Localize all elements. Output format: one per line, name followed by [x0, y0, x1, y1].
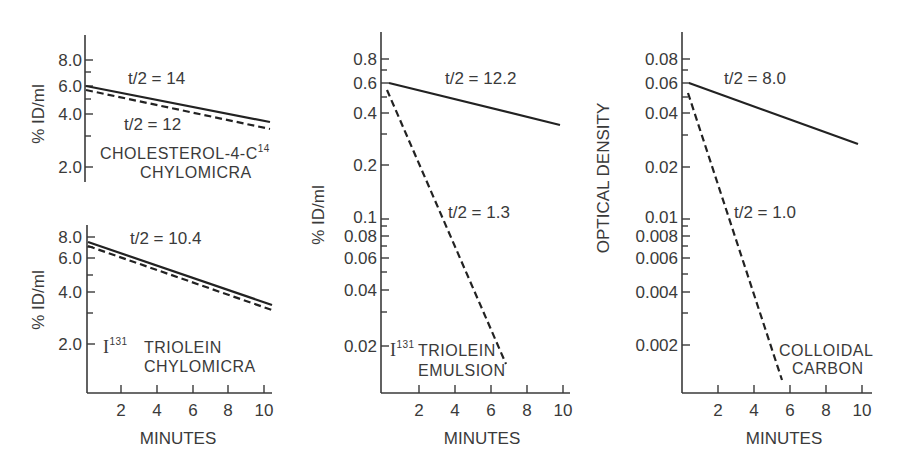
y-tick-label: 6.0	[58, 77, 82, 96]
y-tick-label: 0.2	[353, 156, 377, 175]
y-tick-label: 8.0	[58, 51, 82, 70]
y-tick-label: 0.008	[635, 227, 678, 246]
series-dashed-line	[88, 246, 272, 310]
y-tick-label: 0.6	[353, 74, 377, 93]
y-tick-label: 0.004	[635, 283, 678, 302]
y-tick-label: 0.4	[353, 104, 377, 123]
y-tick-label: 0.08	[344, 227, 377, 246]
annotation-halflife-solid: t/2 = 8.0	[724, 69, 786, 88]
panel-title-isotope: I131	[103, 336, 128, 357]
x-tick-label: 10	[853, 401, 872, 420]
series-solid-line	[689, 83, 858, 144]
y-tick-label: 8.0	[58, 228, 82, 247]
x-tick-label: 8	[821, 401, 830, 420]
annotation-halflife-solid: t/2 = 14	[128, 69, 185, 88]
series-dashed-line	[688, 93, 782, 380]
y-tick-label: 0.01	[645, 208, 678, 227]
y-axis-label: % ID/ml	[29, 270, 48, 330]
annotation-halflife: t/2 = 10.4	[130, 229, 201, 248]
x-tick-label: 4	[749, 401, 758, 420]
x-tick-label: 6	[785, 401, 794, 420]
panel-title-line1: CHOLESTEROL-4-C14	[100, 143, 270, 162]
y-tick-label: 6.0	[58, 249, 82, 268]
x-tick-label: 6	[188, 401, 197, 420]
y-tick-label: 0.08	[645, 50, 678, 69]
x-tick-label: 4	[450, 401, 459, 420]
x-axis-label: MINUTES	[746, 429, 823, 448]
x-tick-label: 4	[152, 401, 161, 420]
panel-triolein-emulsion: 0.8 0.6 0.4 0.2 0.1 0.08 0.06 0.04 0.02 …	[309, 32, 572, 448]
panel-cholesterol-chylomicra: 8.0 6.0 4.0 2.0 % ID/ml t/2 = 14 t/2 = 1…	[29, 35, 270, 182]
y-tick-label: 2.0	[58, 158, 82, 177]
y-tick-label: 2.0	[58, 335, 82, 354]
x-tick-label: 2	[713, 401, 722, 420]
panel-title-line1: COLLOIDAL	[779, 342, 873, 359]
y-tick-label: 4.0	[58, 105, 82, 124]
y-axis-label: % ID/ml	[309, 185, 328, 245]
y-tick-label: 0.04	[344, 281, 377, 300]
panel-title-isotope: I131	[390, 339, 415, 360]
series-solid-line	[389, 83, 560, 125]
annotation-halflife-dashed: t/2 = 12	[124, 115, 181, 134]
y-tick-label: 4.0	[58, 283, 82, 302]
y-tick-label: 0.8	[353, 50, 377, 69]
x-tick-label: 10	[554, 401, 573, 420]
x-tick-label: 8	[522, 401, 531, 420]
y-axis-label: % ID/ml	[29, 84, 48, 144]
annotation-halflife-dashed: t/2 = 1.0	[734, 203, 796, 222]
y-tick-label: 0.006	[635, 249, 678, 268]
x-tick-label: 10	[255, 401, 274, 420]
x-tick-label: 6	[486, 401, 495, 420]
panel-colloidal-carbon: 0.08 0.06 0.04 0.02 0.01 0.008 0.006 0.0…	[594, 32, 873, 448]
series-solid-line	[88, 242, 272, 305]
y-tick-label: 0.002	[635, 336, 678, 355]
y-tick-label: 0.1	[353, 208, 377, 227]
series-dashed-line	[387, 90, 506, 364]
y-tick-label: 0.04	[645, 104, 678, 123]
y-tick-label: 0.06	[344, 249, 377, 268]
panel-triolein-chylomicra: 8.0 6.0 4.0 2.0 % ID/ml 2 4 6 8 10 MINUT…	[29, 225, 273, 448]
x-tick-label: 8	[223, 401, 232, 420]
y-tick-label: 0.02	[645, 158, 678, 177]
annotation-halflife-solid: t/2 = 12.2	[445, 69, 516, 88]
figure: 8.0 6.0 4.0 2.0 % ID/ml t/2 = 14 t/2 = 1…	[0, 0, 901, 472]
y-tick-label: 0.02	[344, 337, 377, 356]
annotation-halflife-dashed: t/2 = 1.3	[448, 203, 510, 222]
panel-title-line2: CHYLOMICRA	[140, 164, 252, 181]
x-tick-label: 2	[116, 401, 125, 420]
y-axis-label: OPTICAL DENSITY	[594, 103, 613, 254]
y-tick-label: 0.06	[645, 74, 678, 93]
x-tick-label: 2	[414, 401, 423, 420]
panel-title-line1: TRIOLEIN	[418, 342, 496, 359]
x-axis-label: MINUTES	[444, 429, 521, 448]
panel-title-line2: CHYLOMICRA	[144, 358, 256, 375]
x-axis-label: MINUTES	[140, 429, 217, 448]
panel-title-line1: TRIOLEIN	[144, 339, 222, 356]
panel-title-line2: CARBON	[792, 360, 863, 377]
panel-title-line2: EMULSION	[418, 362, 506, 379]
